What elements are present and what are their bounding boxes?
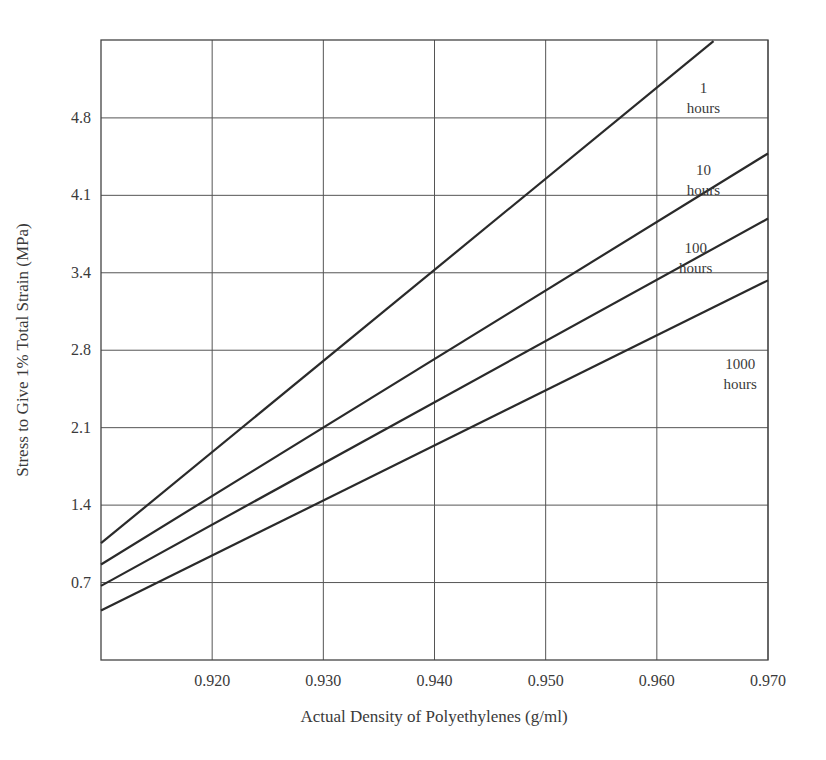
x-tick-label: 0.940: [417, 672, 453, 689]
x-tick-label: 0.950: [528, 672, 564, 689]
chart-canvas: 1hours10hours100hours1000hours 0.9200.93…: [0, 0, 826, 760]
y-axis-ticks: 0.71.42.12.83.44.14.8: [71, 109, 91, 591]
y-tick-label: 2.8: [71, 341, 91, 358]
series-label: 10hours: [687, 162, 720, 198]
y-tick-label: 2.1: [71, 419, 91, 436]
y-tick-label: 3.4: [71, 264, 91, 281]
grid-lines: [101, 40, 768, 660]
x-tick-label: 0.920: [194, 672, 230, 689]
series-label: 1000hours: [724, 356, 757, 392]
series-line: [101, 41, 714, 543]
series-labels: 1hours10hours100hours1000hours: [679, 80, 757, 392]
x-axis-ticks: 0.9200.9300.9400.9500.9600.970: [194, 672, 786, 689]
y-tick-label: 4.8: [71, 109, 91, 126]
y-axis-label: Stress to Give 1% Total Strain (MPa): [13, 223, 32, 476]
x-axis-label: Actual Density of Polyethylenes (g/ml): [300, 707, 567, 726]
y-tick-label: 1.4: [71, 496, 91, 513]
x-tick-label: 0.970: [750, 672, 786, 689]
series-label: 1hours: [687, 80, 720, 116]
x-tick-label: 0.930: [305, 672, 341, 689]
y-tick-label: 4.1: [71, 186, 91, 203]
y-tick-label: 0.7: [71, 574, 91, 591]
x-tick-label: 0.960: [639, 672, 675, 689]
